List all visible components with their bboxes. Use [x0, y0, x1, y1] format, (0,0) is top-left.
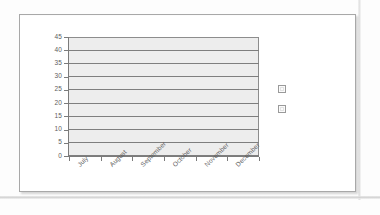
- scan-streak-right: [358, 0, 361, 200]
- document-page-card: 454035302520151050 JulyAugustSeptemberOc…: [19, 14, 356, 192]
- legend-swatch-1[interactable]: [278, 85, 286, 93]
- gridline: [69, 63, 259, 64]
- plot-border-top: [69, 37, 259, 38]
- x-axis-tick: [132, 157, 133, 161]
- legend-swatch-1-inner: [280, 87, 284, 91]
- gridline: [69, 89, 259, 90]
- y-axis-tick: [64, 143, 69, 144]
- y-axis-tick: [64, 37, 69, 38]
- legend-swatch-2[interactable]: [278, 105, 286, 113]
- x-axis-tick: [164, 157, 165, 161]
- y-axis-tick: [64, 63, 69, 64]
- y-axis-tick-label: 35: [42, 60, 62, 67]
- gridline: [69, 76, 259, 77]
- plot-border-right: [258, 37, 259, 156]
- screenshot-root: 454035302520151050 JulyAugustSeptemberOc…: [0, 0, 380, 215]
- y-axis-tick: [64, 103, 69, 104]
- y-axis-tick: [64, 50, 69, 51]
- y-axis-tick-label: 10: [42, 126, 62, 133]
- y-axis-tick-label: 15: [42, 113, 62, 120]
- y-axis-tick: [64, 77, 69, 78]
- x-axis-tick: [227, 157, 228, 161]
- y-axis-tick-label: 5: [42, 139, 62, 146]
- y-axis-line: [68, 37, 69, 157]
- x-axis-tick: [69, 157, 70, 161]
- scan-streak-bottom: [0, 196, 380, 199]
- gridline: [69, 116, 259, 117]
- y-axis-tick-label: 0: [42, 153, 62, 160]
- x-axis-tick: [196, 157, 197, 161]
- gridline: [69, 50, 259, 51]
- y-axis-tick-label: 30: [42, 73, 62, 80]
- y-axis-tick: [64, 90, 69, 91]
- y-axis-tick-label: 45: [42, 34, 62, 41]
- y-axis-tick: [64, 130, 69, 131]
- y-axis-tick-label: 40: [42, 47, 62, 54]
- x-axis-tick: [101, 157, 102, 161]
- chart-plot-area: [69, 37, 259, 156]
- y-axis-tick-label: 20: [42, 100, 62, 107]
- gridline: [69, 103, 259, 104]
- y-axis-tick: [64, 116, 69, 117]
- gridline: [69, 129, 259, 130]
- legend-swatch-2-inner: [280, 107, 284, 111]
- x-axis-tick: [259, 157, 260, 161]
- bar-chart[interactable]: 454035302520151050 JulyAugustSeptemberOc…: [20, 15, 357, 193]
- y-axis-tick-label: 25: [42, 86, 62, 93]
